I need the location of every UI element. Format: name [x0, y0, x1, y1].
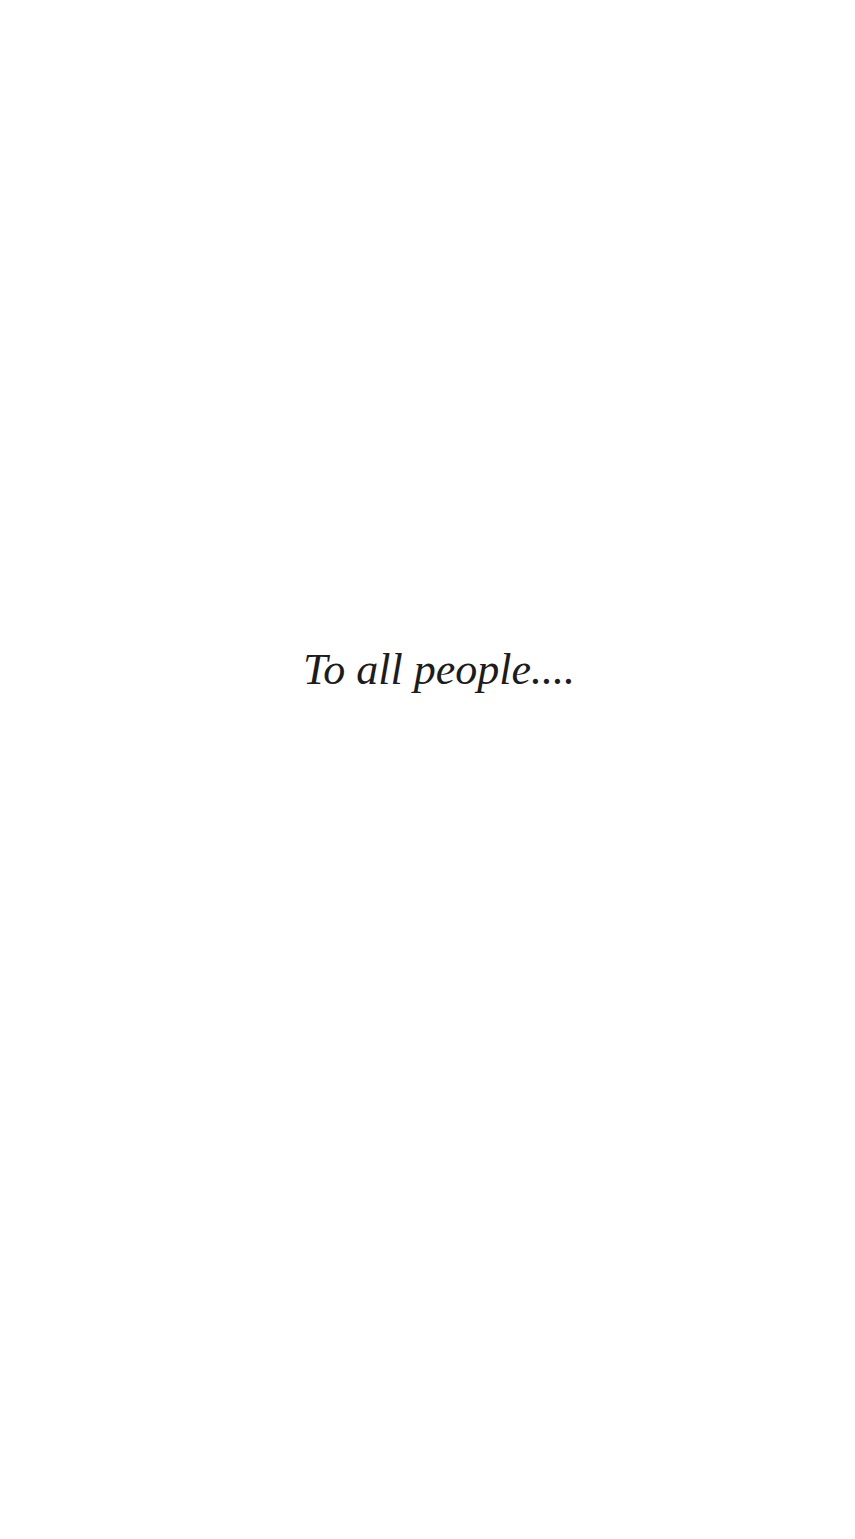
dedication-text: To all people....	[0, 640, 855, 700]
book-page: To all people....	[0, 0, 855, 1539]
